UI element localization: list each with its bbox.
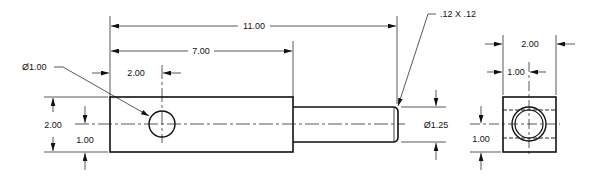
dim-hole-height: 1.00 — [76, 106, 94, 170]
dim-chamfer: .12 X .12 — [398, 9, 476, 106]
dim-shaft-diameter: Ø1.25 — [424, 90, 449, 160]
front-view — [75, 65, 405, 152]
dim-hole-diameter-label: Ø1.00 — [22, 62, 47, 72]
side-block-outline — [503, 97, 556, 152]
dim-side-width: 2.00 — [485, 39, 575, 49]
dim-block-height: 2.00 — [44, 98, 62, 151]
dim-side-hole-y: 1.00 — [472, 106, 490, 170]
dim-block-length: 7.00 — [111, 46, 292, 56]
dim-block-height-label: 2.00 — [44, 120, 62, 130]
shaft-outline — [293, 107, 398, 142]
dim-side-width-label: 2.00 — [521, 39, 539, 49]
dim-hole-position-label: 2.00 — [127, 68, 145, 78]
dim-block-length-label: 7.00 — [192, 46, 210, 56]
main-block-outline — [110, 97, 293, 152]
dim-hole-position: 2.00 — [92, 68, 181, 78]
dim-side-hole-x-label: 1.00 — [507, 67, 525, 77]
dim-shaft-diameter-label: Ø1.25 — [424, 120, 449, 130]
dim-side-hole-y-label: 1.00 — [472, 134, 490, 144]
engineering-drawing: 11.00 7.00 2.00 Ø1.00 2.00 1.00 Ø1.25 .1… — [0, 0, 599, 181]
dim-side-hole-x: 1.00 — [487, 67, 546, 77]
extension-lines — [44, 16, 446, 152]
dim-overall-length: 11.00 — [111, 21, 396, 31]
dim-chamfer-label: .12 X .12 — [440, 9, 476, 19]
dim-overall-length-label: 11.00 — [243, 21, 265, 31]
dim-hole-height-label: 1.00 — [76, 135, 94, 145]
